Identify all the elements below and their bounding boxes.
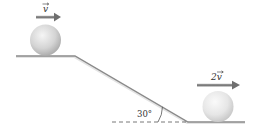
velocity-arrow-upper — [36, 13, 61, 22]
angle-label: 30° — [137, 109, 152, 119]
velocity-label-upper: v — [43, 4, 48, 14]
incline-diagram: 30° v 2v — [0, 0, 256, 132]
lower-ball — [203, 91, 234, 122]
velocity-label-lower: 2v — [210, 72, 222, 82]
upper-ball — [30, 25, 61, 56]
velocity-arrow-lower — [197, 81, 240, 90]
